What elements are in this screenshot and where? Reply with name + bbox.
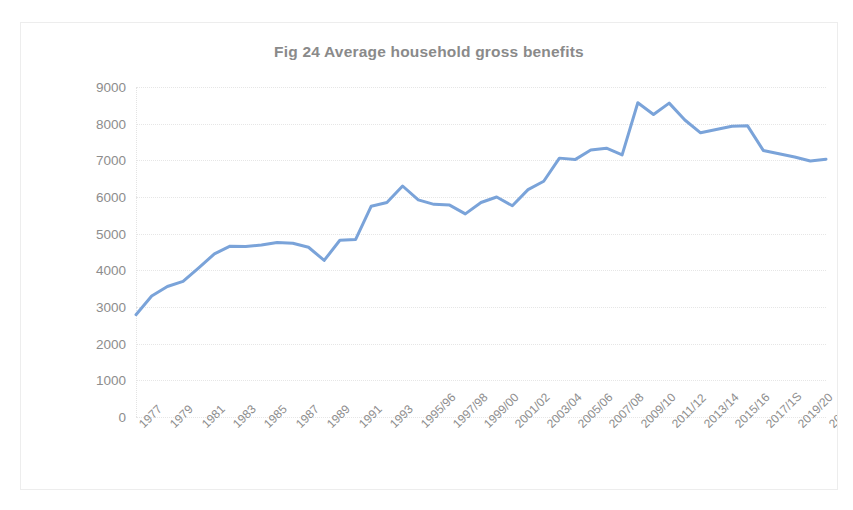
series-line-chart bbox=[136, 87, 826, 417]
y-axis-tick-label: 9000 bbox=[96, 80, 126, 95]
plot-area: 9000800070006000500040003000200010000 bbox=[84, 87, 826, 417]
y-axis-tick-label: 4000 bbox=[96, 263, 126, 278]
gridlines-and-series bbox=[136, 87, 826, 417]
y-axis-tick-label: 0 bbox=[118, 410, 126, 425]
chart-container: Fig 24 Average household gross benefits … bbox=[20, 22, 838, 490]
y-axis-tick-labels: 9000800070006000500040003000200010000 bbox=[84, 87, 126, 417]
chart-title: Fig 24 Average household gross benefits bbox=[21, 43, 837, 61]
y-axis-tick-label: 8000 bbox=[96, 116, 126, 131]
y-axis-tick-label: 5000 bbox=[96, 226, 126, 241]
series-polyline bbox=[136, 103, 826, 315]
x-axis-tick-labels: 1977197919811983198519871989199119931995… bbox=[136, 421, 838, 490]
y-axis-tick-label: 7000 bbox=[96, 153, 126, 168]
y-axis-tick-label: 1000 bbox=[96, 373, 126, 388]
y-axis-tick-label: 3000 bbox=[96, 300, 126, 315]
y-axis-tick-label: 2000 bbox=[96, 336, 126, 351]
y-axis-tick-label: 6000 bbox=[96, 190, 126, 205]
